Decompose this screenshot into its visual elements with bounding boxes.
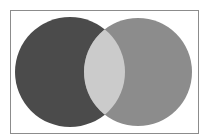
venn-diagram [0,0,204,138]
